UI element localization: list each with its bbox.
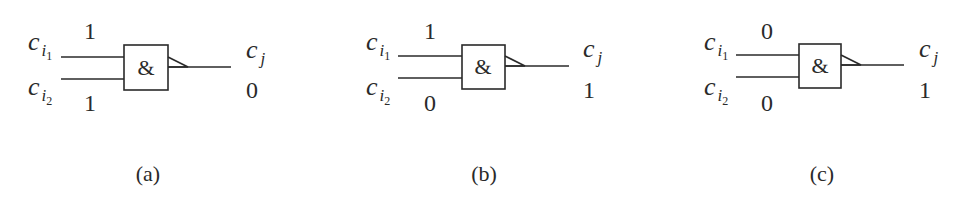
- caption-c: (c): [810, 161, 834, 186]
- output-label: cj: [919, 34, 939, 67]
- input2-label: ci2: [366, 72, 390, 108]
- input2-value: 1: [84, 90, 96, 116]
- and-symbol: &: [474, 54, 491, 79]
- output-value: 1: [919, 77, 931, 103]
- inversion-wedge-icon: [841, 55, 861, 65]
- panel-b: ci1 1 ci2 0 & cj 1 (b): [366, 18, 603, 186]
- output-value: 0: [246, 77, 258, 103]
- and-symbol: &: [811, 53, 828, 78]
- inversion-wedge-icon: [505, 56, 525, 66]
- caption-a: (a): [136, 161, 160, 186]
- input2-value: 0: [761, 90, 773, 116]
- input2-label: ci2: [704, 72, 728, 108]
- caption-b: (b): [471, 161, 497, 186]
- input1-label: ci1: [28, 27, 52, 63]
- and-symbol: &: [137, 55, 154, 80]
- input1-label: ci1: [366, 27, 390, 63]
- output-value: 1: [583, 77, 595, 103]
- nand-gate-figure: ci1 1 ci2 1 & cj 0 (a) ci1 1 ci2 0 & cj …: [0, 0, 968, 203]
- panel-a: ci1 1 ci2 1 & cj 0 (a): [28, 18, 266, 186]
- output-label: cj: [583, 34, 603, 67]
- output-label: cj: [246, 35, 266, 68]
- input1-value: 0: [761, 18, 773, 44]
- input2-value: 0: [424, 90, 436, 116]
- input1-label: ci1: [704, 27, 728, 63]
- panel-c: ci1 0 ci2 0 & cj 1 (c): [704, 18, 939, 186]
- inversion-wedge-icon: [168, 57, 188, 67]
- input2-label: ci2: [28, 72, 52, 108]
- input1-value: 1: [84, 18, 96, 44]
- input1-value: 1: [424, 18, 436, 44]
